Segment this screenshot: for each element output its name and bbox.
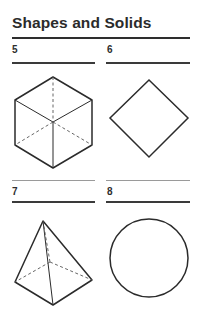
square-icon <box>110 80 188 157</box>
shapes-canvas <box>0 0 202 322</box>
cube-icon <box>15 77 92 168</box>
pyramid-icon <box>15 221 92 305</box>
circle-icon <box>110 219 188 297</box>
